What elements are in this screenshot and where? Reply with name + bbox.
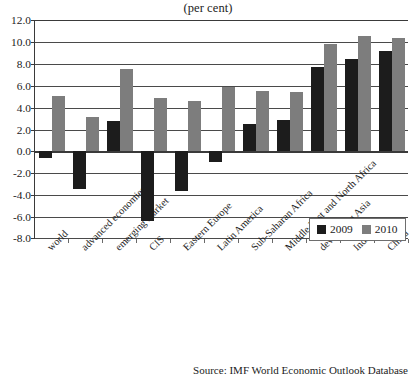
bar-2010 [358, 36, 371, 151]
y-tick-label: 6.0 [0, 80, 31, 91]
y-tick-label: 0.0 [0, 146, 31, 157]
y-tick-label: 8.0 [0, 58, 31, 69]
bar-2009 [39, 151, 52, 158]
y-tick-label: -6.0 [0, 212, 31, 223]
bar-2010 [188, 101, 201, 151]
bar-chart: (per cent) 12.010.08.06.04.02.00.0-2.0-4… [0, 0, 416, 386]
bar-2010 [120, 69, 133, 151]
bar-2010 [154, 98, 167, 152]
y-tick-label: -2.0 [0, 168, 31, 179]
bar-2010 [290, 92, 303, 151]
y-tick-label: 10.0 [0, 36, 31, 47]
bar-group [375, 20, 409, 238]
chart-legend: 2009 2010 [309, 218, 406, 241]
y-tick-label: -8.0 [0, 233, 31, 244]
bar-2009 [209, 151, 222, 162]
source-note: Source: IMF World Economic Outlook Datab… [0, 364, 408, 376]
legend-swatch-icon-2010 [362, 225, 371, 234]
bar-2010 [222, 87, 235, 152]
bar-2009 [379, 51, 392, 152]
bar-2009 [243, 124, 256, 151]
legend-swatch-icon-2009 [317, 225, 326, 234]
y-tick-label: -4.0 [0, 190, 31, 201]
y-tick-label: 2.0 [0, 124, 31, 135]
bar-2010 [392, 38, 405, 152]
legend-label-2010: 2010 [375, 224, 398, 235]
bar-2009 [107, 121, 120, 152]
y-axis-tick-labels: 12.010.08.06.04.02.00.0-2.0-4.0-6.0-8.0 [0, 20, 31, 239]
bar-2009 [175, 151, 188, 190]
bar-group [171, 20, 205, 238]
x-axis-category-labels: worldadvanced economiesemerging marketCI… [0, 243, 416, 353]
bar-group [69, 20, 103, 238]
legend-entry-2010: 2010 [362, 224, 398, 235]
bar-2010 [256, 91, 269, 151]
y-tick-label: 12.0 [0, 15, 31, 26]
bar-2010 [86, 117, 99, 151]
bar-2010 [324, 44, 337, 151]
legend-entry-2009: 2009 [317, 224, 353, 235]
bar-2009 [311, 67, 324, 151]
bar-2009 [73, 151, 86, 188]
bar-group [35, 20, 69, 238]
bar-2009 [345, 59, 358, 151]
bar-2009 [277, 120, 290, 152]
bar-2010 [52, 96, 65, 152]
legend-label-2009: 2009 [330, 224, 353, 235]
y-tick-label: 4.0 [0, 102, 31, 113]
chart-title: (per cent) [0, 1, 416, 16]
